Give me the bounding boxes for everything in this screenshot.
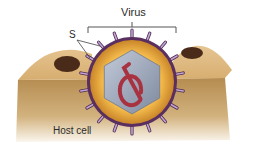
host-cell-label: Host cell (53, 125, 91, 136)
spike-label: S (69, 29, 76, 40)
illustration (0, 0, 253, 149)
virus-host-cell-diagram: Virus S Host cell (0, 0, 253, 149)
virus-label: Virus (121, 6, 146, 18)
host-cell-pit-left (54, 56, 80, 72)
host-cell-pit-right (181, 47, 203, 59)
